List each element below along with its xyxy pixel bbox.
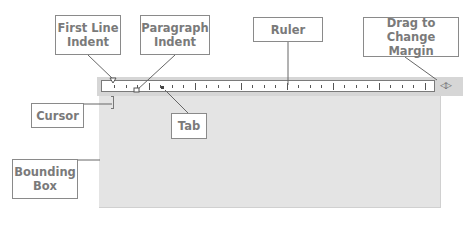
- callout-first-line-indent: First Line Indent: [55, 15, 121, 55]
- first-line-indent-marker-icon: [110, 78, 116, 83]
- paragraph-indent-marker-icon: [134, 88, 139, 92]
- callout-paragraph-indent: Paragraph Indent: [140, 15, 210, 55]
- callout-tab: Tab: [171, 113, 207, 139]
- callout-bounding-box: Bounding Box: [12, 159, 78, 199]
- callout-ruler: Ruler: [253, 17, 323, 42]
- tab-marker-icon: [161, 86, 164, 89]
- callout-cursor: Cursor: [31, 103, 84, 128]
- callout-drag-margin: Drag to Change Margin: [363, 17, 459, 57]
